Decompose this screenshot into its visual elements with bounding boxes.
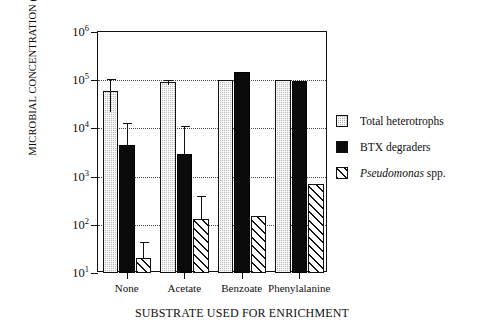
figure: MICROBIAL CONCENTRATION (cells/gram soil…	[0, 0, 484, 332]
y-axis-tick	[91, 273, 98, 274]
bar	[177, 154, 193, 273]
legend-item[interactable]: BTX degraders	[336, 134, 482, 160]
legend-label: Total heterotrophs	[360, 115, 444, 127]
bar	[119, 145, 135, 273]
legend-swatch	[336, 115, 348, 127]
x-axis-tick	[184, 271, 185, 279]
y-axis-tick	[91, 32, 98, 33]
y-axis-tick	[91, 128, 98, 129]
error-bar	[127, 123, 128, 145]
x-axis-tick-label: Phenylalanine	[268, 282, 330, 294]
legend: Total heterotrophsBTX degradersPseudomon…	[336, 108, 482, 186]
x-axis-tick	[127, 271, 128, 279]
y-axis-tick-label: 101	[72, 264, 89, 281]
x-axis-tick	[242, 271, 243, 279]
bar	[136, 258, 152, 273]
legend-label: BTX degraders	[360, 141, 431, 153]
y-axis-tick	[91, 177, 98, 178]
bar	[103, 91, 119, 273]
x-axis-tick-label: Acetate	[167, 282, 201, 294]
y-axis-tick-label: 105	[72, 71, 89, 88]
plot-area: 106105104103102101NoneAcetateBenzoatePhe…	[97, 31, 327, 272]
y-axis-tick-label: 103	[72, 168, 89, 185]
x-axis-tick-label: Benzoate	[221, 282, 262, 294]
y-axis-tick-label: 106	[72, 23, 89, 40]
y-axis-title: MICROBIAL CONCENTRATION (cells/gram soil…	[27, 0, 38, 164]
bar	[251, 216, 267, 273]
y-axis-tick	[91, 225, 98, 226]
bar	[193, 219, 209, 273]
bar	[308, 184, 324, 273]
y-axis-tick-label: 102	[72, 216, 89, 233]
x-axis-title: SUBSTRATE USED FOR ENRICHMENT	[0, 306, 484, 321]
legend-swatch	[336, 141, 348, 153]
error-bar	[168, 80, 169, 85]
x-axis-tick	[299, 271, 300, 279]
bar	[160, 82, 176, 273]
error-bar	[110, 79, 111, 112]
error-bar	[143, 242, 144, 259]
bar	[234, 72, 250, 273]
bar	[218, 80, 234, 273]
y-axis-tick	[91, 80, 98, 81]
x-axis-tick-label: None	[115, 282, 139, 294]
error-bar	[201, 196, 202, 220]
legend-item[interactable]: Total heterotrophs	[336, 108, 482, 134]
legend-swatch	[336, 167, 348, 179]
y-axis-tick-label: 104	[72, 119, 89, 136]
legend-item[interactable]: Pseudomonas spp.	[336, 160, 482, 186]
bar	[275, 80, 291, 273]
error-bar	[184, 126, 185, 153]
bar	[292, 81, 308, 273]
legend-label: Pseudomonas spp.	[360, 167, 446, 179]
